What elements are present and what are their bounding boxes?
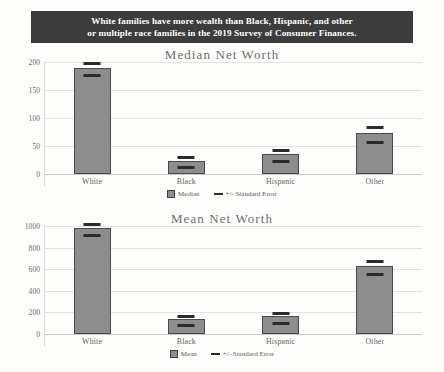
headline-banner: White families have more wealth than Bla… bbox=[31, 11, 413, 43]
y-axis-tick-label: 100 bbox=[29, 114, 40, 123]
chart-title: Mean Net Worth bbox=[0, 211, 444, 226]
document-page: White families have more wealth than Bla… bbox=[0, 0, 444, 372]
bar bbox=[356, 133, 393, 174]
legend-item-error: +/- Standard Error bbox=[211, 350, 274, 358]
error-bar-lower bbox=[178, 166, 195, 169]
error-bar-upper bbox=[178, 315, 195, 318]
bar-series bbox=[45, 62, 422, 174]
error-bar-lower bbox=[272, 322, 289, 325]
gridline bbox=[45, 174, 422, 175]
headline-line-1: White families have more wealth than Bla… bbox=[91, 15, 353, 27]
x-axis-tick-label: Other bbox=[328, 177, 422, 186]
chart-legend: Mean +/- Standard Error bbox=[0, 350, 444, 358]
y-axis-tick-label: 1000 bbox=[25, 222, 40, 231]
legend-item-series: Median bbox=[167, 190, 199, 198]
error-bar-lower bbox=[84, 74, 101, 77]
error-bar-upper bbox=[178, 156, 195, 159]
error-bar-lower bbox=[366, 141, 383, 144]
bar-column bbox=[328, 226, 422, 334]
legend-label-error: +/- Standard Error bbox=[226, 190, 277, 198]
x-axis-tick-label: Hispanic bbox=[234, 177, 328, 186]
bar-column bbox=[139, 62, 233, 174]
y-axis-tick-label: 0 bbox=[36, 170, 40, 179]
chart-title: Median Net Worth bbox=[0, 47, 444, 62]
error-bar-upper bbox=[366, 260, 383, 263]
error-bar-upper bbox=[84, 62, 101, 65]
bar bbox=[74, 228, 111, 334]
plot-area: 02004006008001000 WhiteBlackHispanicOthe… bbox=[44, 226, 422, 346]
bar-column bbox=[139, 226, 233, 334]
legend-item-series: Mean bbox=[170, 350, 197, 358]
x-axis-tick-label: White bbox=[45, 177, 139, 186]
plot-area: 050100150200 WhiteBlackHispanicOther bbox=[44, 62, 422, 186]
bar bbox=[262, 316, 299, 334]
x-axis-tick-label: Black bbox=[139, 337, 233, 346]
bar bbox=[74, 68, 111, 174]
bar bbox=[168, 161, 205, 174]
error-bar-upper bbox=[366, 126, 383, 129]
error-bar-lower bbox=[366, 273, 383, 276]
headline-line-2: or multiple race families in the 2019 Su… bbox=[87, 27, 356, 39]
error-bar-lower bbox=[84, 234, 101, 237]
x-axis-tick-label: Hispanic bbox=[234, 337, 328, 346]
y-axis-tick-label: 600 bbox=[29, 265, 40, 274]
chart-mean-net-worth: Mean Net Worth 02004006008001000 WhiteBl… bbox=[0, 211, 444, 358]
error-bar-swatch-icon bbox=[214, 193, 223, 196]
chart-legend: Median +/- Standard Error bbox=[0, 190, 444, 198]
y-axis-tick-label: 200 bbox=[29, 58, 40, 67]
legend-label-series: Mean bbox=[181, 350, 197, 358]
bar-swatch-icon bbox=[167, 190, 175, 198]
plot-canvas: 02004006008001000 bbox=[45, 226, 422, 334]
bar bbox=[262, 154, 299, 174]
error-bar-upper bbox=[272, 312, 289, 315]
bar bbox=[356, 266, 393, 334]
gridline bbox=[45, 334, 422, 335]
bar bbox=[168, 319, 205, 334]
x-axis-tick-label: White bbox=[45, 337, 139, 346]
error-bar-upper bbox=[84, 223, 101, 226]
y-axis-tick-label: 400 bbox=[29, 286, 40, 295]
bar-series bbox=[45, 226, 422, 334]
error-bar-lower bbox=[178, 324, 195, 327]
x-axis-labels: WhiteBlackHispanicOther bbox=[45, 337, 422, 346]
y-axis-tick-label: 150 bbox=[29, 86, 40, 95]
plot-canvas: 050100150200 bbox=[45, 62, 422, 174]
x-axis-labels: WhiteBlackHispanicOther bbox=[45, 177, 422, 186]
bar-column bbox=[45, 62, 139, 174]
bar-column bbox=[234, 226, 328, 334]
x-axis-tick-label: Other bbox=[328, 337, 422, 346]
bar-column bbox=[45, 226, 139, 334]
bar-swatch-icon bbox=[170, 350, 178, 358]
chart-median-net-worth: Median Net Worth 050100150200 WhiteBlack… bbox=[0, 47, 444, 198]
bar-column bbox=[234, 62, 328, 174]
legend-item-error: +/- Standard Error bbox=[214, 190, 277, 198]
error-bar-swatch-icon bbox=[211, 353, 220, 356]
y-axis-tick-label: 50 bbox=[32, 142, 40, 151]
error-bar-lower bbox=[272, 160, 289, 163]
legend-label-error: +/- Standard Error bbox=[223, 350, 274, 358]
error-bar-upper bbox=[272, 149, 289, 152]
y-axis-tick-label: 200 bbox=[29, 308, 40, 317]
legend-label-series: Median bbox=[178, 190, 199, 198]
x-axis-tick-label: Black bbox=[139, 177, 233, 186]
y-axis-tick-label: 0 bbox=[36, 330, 40, 339]
bar-column bbox=[328, 62, 422, 174]
y-axis-tick-label: 800 bbox=[29, 243, 40, 252]
